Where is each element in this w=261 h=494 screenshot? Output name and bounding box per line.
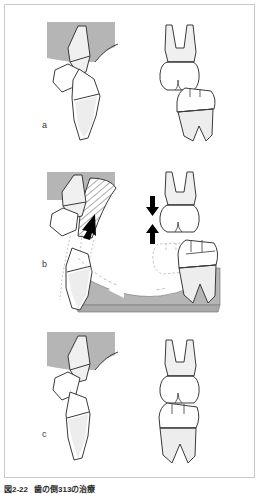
panel-a bbox=[47, 22, 215, 141]
panel-a-frontal-view bbox=[160, 25, 215, 141]
upper-molar-frontal-c bbox=[165, 340, 196, 376]
figure-caption: 図2-22歯の倒313の治療 bbox=[4, 483, 255, 494]
panel-b bbox=[47, 172, 220, 312]
lower-molar-frontal-a bbox=[177, 88, 215, 112]
panel-a-lateral-view bbox=[47, 22, 118, 140]
lower-molar-frontal-c bbox=[159, 403, 199, 428]
lower-molar-roots-frontal-c bbox=[160, 428, 196, 463]
panel-c bbox=[47, 332, 199, 463]
panel-c-frontal-view bbox=[159, 340, 199, 463]
upper-molar-crown-frontal-b bbox=[160, 205, 199, 232]
upper-molar-frontal-b bbox=[165, 172, 196, 205]
mandibular-bone-base-b bbox=[76, 305, 220, 312]
lower-molar-roots-frontal-a bbox=[178, 109, 213, 141]
panel-label-c: c bbox=[42, 429, 47, 439]
adjacent-tooth-b bbox=[50, 208, 78, 236]
panel-b-frontal-view bbox=[146, 172, 218, 303]
upper-molar-crown-frontal-c bbox=[160, 376, 199, 403]
figure-caption-text: 歯の倒313の治療 bbox=[34, 485, 95, 494]
panel-c-lateral-view bbox=[47, 332, 118, 460]
intrusion-arrow-down-b[interactable] bbox=[146, 196, 159, 216]
lower-molar-frontal-b bbox=[178, 240, 218, 268]
upper-molar-frontal-a bbox=[165, 25, 196, 62]
panel-label-b: b bbox=[42, 259, 47, 269]
figure-caption-number: 図2-22 bbox=[4, 485, 28, 494]
panel-label-a: a bbox=[42, 120, 47, 130]
eruption-arrow-up-b[interactable] bbox=[146, 224, 159, 244]
upper-molar-crown-frontal-a bbox=[160, 62, 199, 90]
